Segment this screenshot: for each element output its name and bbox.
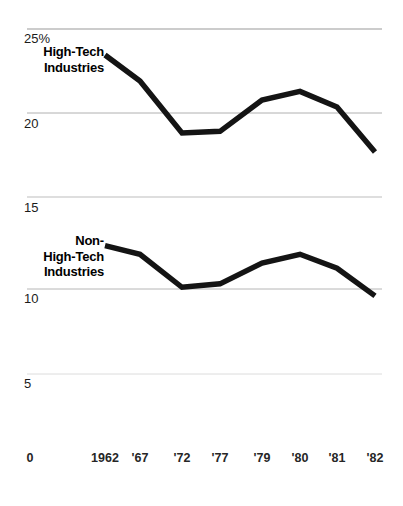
series-label-line-2: High-Tech <box>16 249 104 265</box>
x-tick-label-0: 0 <box>10 452 50 465</box>
data-series-group <box>105 55 375 296</box>
y-tick-label-15: 15 <box>24 201 38 214</box>
series-line-high-tech-industries <box>105 55 375 152</box>
series-label-high-tech-industries: High-Tech Industries <box>20 44 104 75</box>
series-label-line-3: Industries <box>16 264 104 280</box>
chart-container: 25% 20 15 10 5 High-Tech Industries Non-… <box>0 0 403 506</box>
y-tick-label-20: 20 <box>24 117 38 130</box>
x-tick-label-77: '77 <box>198 452 242 465</box>
series-line-non-high-tech-industries <box>105 246 375 296</box>
y-tick-label-10: 10 <box>24 292 38 305</box>
x-tick-label-67: '67 <box>118 452 162 465</box>
series-label-non-high-tech-industries: Non- High-Tech Industries <box>16 233 104 280</box>
y-tick-label-5: 5 <box>24 377 31 390</box>
series-label-line-2: Industries <box>20 60 104 76</box>
series-label-line-1: High-Tech <box>20 44 104 60</box>
x-tick-label-82: '82 <box>353 452 397 465</box>
series-label-line-1: Non- <box>16 233 104 249</box>
gridlines <box>27 29 382 374</box>
